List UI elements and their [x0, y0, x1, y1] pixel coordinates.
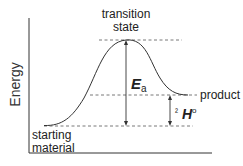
starting-material-label: starting material [32, 129, 75, 155]
product-label: product [200, 89, 240, 102]
dh-prefix: ² [175, 107, 178, 117]
ea-arrowhead-up [124, 40, 128, 45]
dh-main: H [182, 106, 192, 122]
dh-sup: o [192, 106, 196, 115]
y-axis-label: Energy [9, 62, 22, 106]
dh-arrowhead-down [168, 121, 172, 126]
enthalpy-label: ² Ho [175, 104, 196, 121]
ea-main: E [131, 75, 141, 92]
transition-state-label: transition state [98, 8, 154, 34]
activation-energy-label: Ea [131, 77, 147, 95]
starting-line2: material [32, 142, 75, 155]
transition-state-line2: state [98, 21, 154, 34]
ea-arrowhead-down [124, 121, 128, 126]
ea-sub: a [141, 83, 147, 94]
dh-arrowhead-up [168, 95, 172, 100]
reaction-curve [44, 40, 188, 126]
